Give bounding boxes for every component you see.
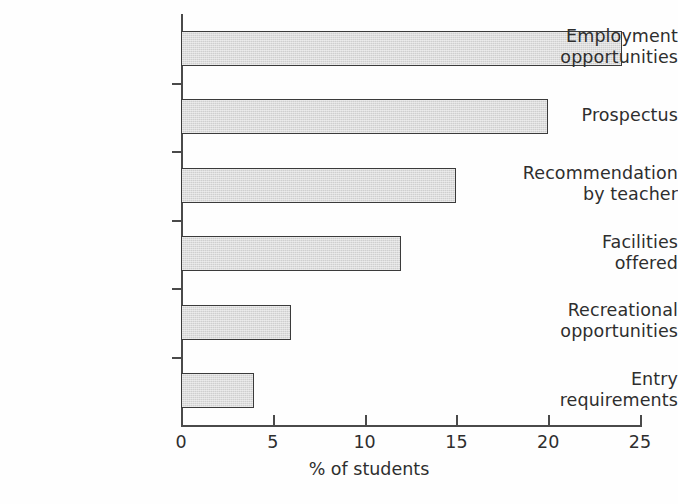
x-axis-line (181, 425, 642, 427)
x-axis-tick (273, 415, 275, 426)
y-axis-tick (172, 151, 183, 153)
y-axis-category-label: Employment opportunities (506, 26, 678, 68)
x-axis-tick-label: 5 (267, 431, 278, 453)
y-axis-category-label: Prospectus (506, 105, 678, 126)
x-axis-tick (548, 415, 550, 426)
x-axis-title: % of students (0, 459, 678, 479)
x-axis-tick-label: 25 (629, 431, 651, 453)
x-axis-tick-label: 15 (445, 431, 467, 453)
x-axis-tick (181, 415, 183, 426)
y-axis-category-label: Entry requirements (506, 369, 678, 411)
y-axis-tick (172, 83, 183, 85)
x-axis-tick-label: 0 (175, 431, 186, 453)
bar (181, 168, 456, 203)
plot-area (181, 14, 640, 425)
y-axis-category-label: Facilities offered (506, 232, 678, 274)
y-axis-category-label: Recreational opportunities (506, 300, 678, 342)
x-axis-tick-label: 20 (537, 431, 559, 453)
x-axis-tick (365, 415, 367, 426)
bar-chart: Employment opportunitiesProspectusRecomm… (0, 0, 678, 504)
bar (181, 99, 548, 134)
x-axis-tick-label: 10 (353, 431, 375, 453)
y-axis-tick (172, 288, 183, 290)
x-axis-tick (456, 415, 458, 426)
bar (181, 305, 291, 340)
y-axis-tick (172, 357, 183, 359)
x-axis-tick (640, 415, 642, 426)
y-axis-category-label: Recommendation by teacher (506, 163, 678, 205)
y-axis-tick (172, 220, 183, 222)
bar (181, 373, 254, 408)
bar (181, 236, 401, 271)
